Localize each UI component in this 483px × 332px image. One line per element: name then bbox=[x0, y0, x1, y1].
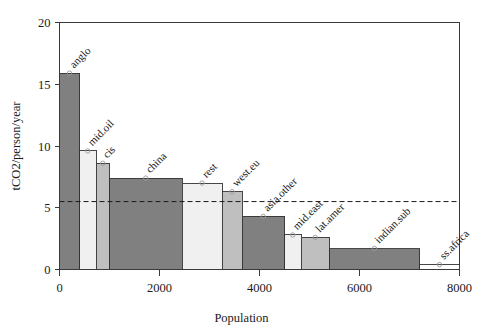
bar-indian-sub bbox=[330, 249, 420, 270]
x-tick-label-8000: 8000 bbox=[447, 281, 472, 295]
x-tick-label-6000: 6000 bbox=[347, 281, 372, 295]
bar-anglo bbox=[60, 73, 80, 269]
y-tick-label-15: 15 bbox=[38, 78, 51, 92]
y-tick-label-5: 5 bbox=[44, 201, 50, 215]
x-axis-title: Population bbox=[214, 311, 269, 325]
bar-asia-other bbox=[242, 216, 285, 269]
bar-mid-east bbox=[285, 235, 302, 270]
bar-mid-oil bbox=[80, 151, 97, 270]
x-tick-label-2000: 2000 bbox=[147, 281, 172, 295]
bar-cis bbox=[96, 163, 110, 269]
chart-container: 05101520 02000400060008000 anglomid.oilc… bbox=[0, 0, 483, 332]
co2-per-person-vs-population-chart: 05101520 02000400060008000 anglomid.oilc… bbox=[0, 0, 483, 332]
y-tick-label-10: 10 bbox=[38, 140, 51, 154]
y-tick-label-0: 0 bbox=[44, 263, 50, 277]
x-tick-label-0: 0 bbox=[56, 281, 62, 295]
bar-lat-amer bbox=[301, 237, 330, 269]
y-tick-label-20: 20 bbox=[38, 16, 51, 30]
y-axis-title: tCO2/person/year bbox=[9, 101, 23, 191]
bar-rest bbox=[182, 183, 222, 269]
bar-west-eu bbox=[222, 192, 242, 270]
x-tick-label-4000: 4000 bbox=[247, 281, 272, 295]
bar-china bbox=[110, 178, 183, 269]
